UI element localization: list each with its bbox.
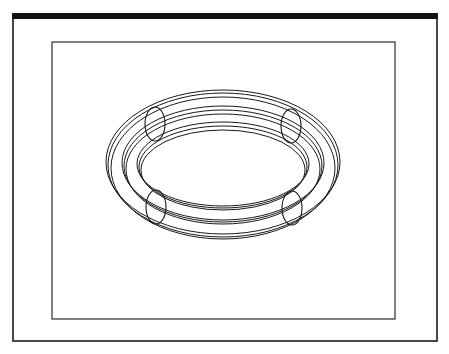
torus-ring-ellipse bbox=[122, 106, 324, 220]
torus-ring-ellipse bbox=[108, 93, 338, 237]
tube-section-top-left bbox=[145, 107, 165, 141]
torus-figure bbox=[0, 0, 449, 354]
torus-ring-ellipse bbox=[124, 110, 322, 222]
torus-wireframe-rings bbox=[106, 90, 340, 239]
outer-frame-top-bar bbox=[12, 13, 438, 19]
inner-frame bbox=[52, 42, 395, 319]
torus-ring-ellipse bbox=[141, 130, 305, 210]
outer-frame bbox=[13, 14, 437, 341]
torus-tube-cross-sections bbox=[145, 107, 302, 225]
torus-ring-ellipse bbox=[139, 126, 307, 208]
torus-ring-ellipse bbox=[106, 90, 340, 234]
